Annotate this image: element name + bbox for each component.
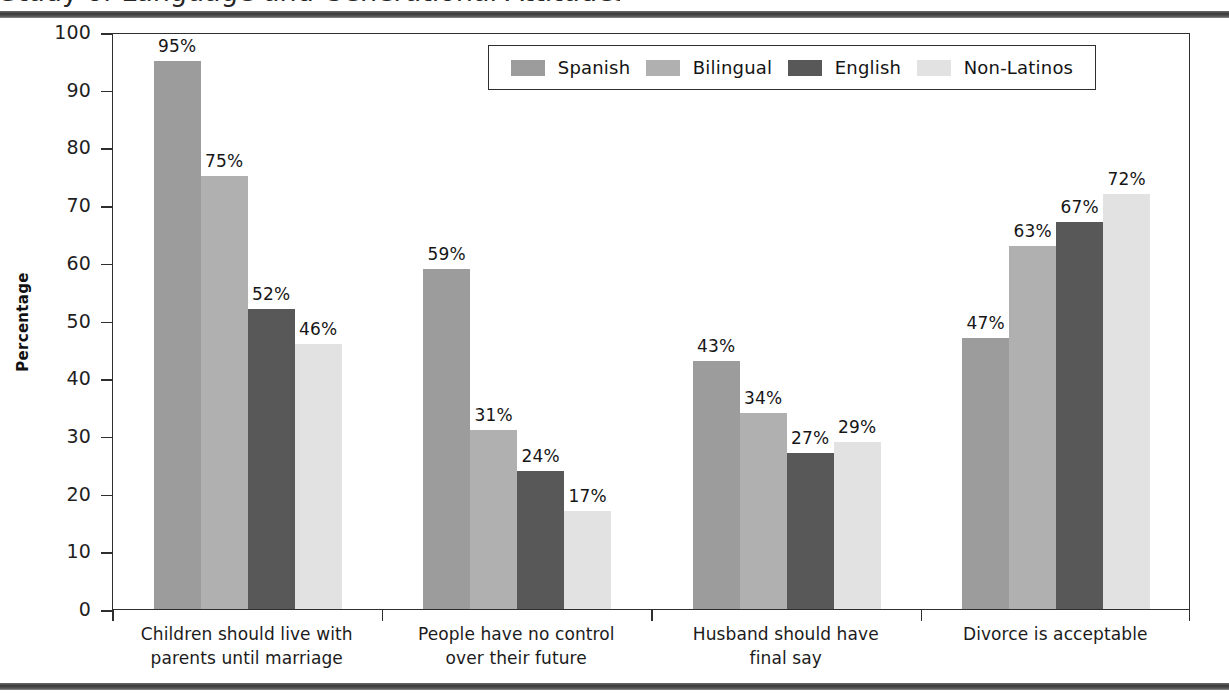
bar-slot: 46%: [295, 34, 342, 609]
chart-legend: SpanishBilingualEnglishNon-Latinos: [488, 45, 1096, 90]
bar-slot: 34%: [740, 34, 787, 609]
bar[interactable]: [248, 309, 295, 609]
bar[interactable]: [787, 453, 834, 609]
x-axis-category-label: Husband should have final say: [651, 622, 921, 670]
legend-item-spanish[interactable]: Spanish: [511, 57, 630, 78]
legend-swatch-icon: [788, 60, 822, 76]
bar-slot: 24%: [517, 34, 564, 609]
y-axis-tick-label: 0: [79, 598, 91, 620]
y-axis-tick-mark: [101, 552, 112, 554]
bar-slot: 67%: [1056, 34, 1103, 609]
y-axis-tick-label: 20: [66, 483, 91, 505]
top-rule: [0, 11, 1229, 18]
bar-slot: 72%: [1103, 34, 1150, 609]
y-axis-tick-label: 50: [66, 310, 91, 332]
bar[interactable]: [1009, 246, 1056, 610]
bar-slot: 43%: [693, 34, 740, 609]
y-axis-tick-mark: [101, 322, 112, 324]
y-axis-tick-mark: [101, 91, 112, 93]
clipped-page-heading: Study of Language and Generational Attit…: [0, 0, 620, 10]
bar-group: 43%34%27%29%: [693, 34, 881, 609]
y-axis-tick-mark: [101, 495, 112, 497]
bar-slot: 47%: [962, 34, 1009, 609]
y-axis: 0102030405060708090100: [0, 33, 112, 610]
legend-label: Spanish: [558, 57, 630, 78]
legend-item-bilingual[interactable]: Bilingual: [646, 57, 772, 78]
chart-plot-frame: 95%75%52%46%59%31%24%17%43%34%27%29%47%6…: [112, 33, 1190, 610]
bar-value-label: 29%: [812, 417, 903, 437]
bar-value-label: 72%: [1081, 169, 1172, 189]
y-axis-tick-label: 90: [66, 79, 91, 101]
y-axis-tick-mark: [101, 379, 112, 381]
legend-label: English: [835, 57, 901, 78]
y-axis-tick-label: 30: [66, 425, 91, 447]
page-root: Study of Language and Generational Attit…: [0, 0, 1229, 699]
y-axis-tick-mark: [101, 610, 112, 612]
bar-group-bars: 43%34%27%29%: [693, 34, 881, 609]
x-axis-tick-mark: [382, 610, 384, 621]
bar-group-bars: 47%63%67%72%: [962, 34, 1150, 609]
bar-value-label: 46%: [273, 319, 364, 339]
bar-group: 47%63%67%72%: [962, 34, 1150, 609]
bar-slot: 59%: [423, 34, 470, 609]
bar-slot: 31%: [470, 34, 517, 609]
y-axis-tick-mark: [101, 264, 112, 266]
bar-group-bars: 95%75%52%46%: [154, 34, 342, 609]
bar-group-bars: 59%31%24%17%: [423, 34, 611, 609]
y-axis-tick-label: 10: [66, 540, 91, 562]
bar-slot: 27%: [787, 34, 834, 609]
legend-item-non-latinos[interactable]: Non-Latinos: [917, 57, 1074, 78]
y-axis-tick-label: 40: [66, 367, 91, 389]
x-axis-category-label: Children should live with parents until …: [112, 622, 382, 670]
legend-swatch-icon: [917, 60, 951, 76]
bar[interactable]: [564, 511, 611, 609]
y-axis-tick-mark: [101, 33, 112, 35]
x-axis-category-label: Divorce is acceptable: [921, 622, 1191, 646]
bar-group: 59%31%24%17%: [423, 34, 611, 609]
legend-swatch-icon: [646, 60, 680, 76]
x-axis-tick-mark: [651, 610, 653, 621]
x-axis-category-label: People have no control over their future: [382, 622, 652, 670]
bar[interactable]: [201, 176, 248, 609]
y-axis-tick-mark: [101, 148, 112, 150]
bar[interactable]: [154, 61, 201, 609]
y-axis-tick-label: 60: [66, 252, 91, 274]
y-axis-tick-label: 100: [54, 21, 91, 43]
bar-group: 95%75%52%46%: [154, 34, 342, 609]
legend-swatch-icon: [511, 60, 545, 76]
legend-label: Bilingual: [693, 57, 772, 78]
y-axis-tick-mark: [101, 437, 112, 439]
bar[interactable]: [1103, 194, 1150, 609]
x-axis-tick-mark: [921, 610, 923, 621]
bar[interactable]: [834, 442, 881, 609]
x-axis-tick-mark: [112, 610, 114, 621]
y-axis-tick-mark: [101, 206, 112, 208]
y-axis-tick-label: 80: [66, 136, 91, 158]
y-axis-tick-label: 70: [66, 194, 91, 216]
bar-slot: 63%: [1009, 34, 1056, 609]
bar-slot: 95%: [154, 34, 201, 609]
bar[interactable]: [423, 269, 470, 609]
bar-value-label: 17%: [542, 486, 633, 506]
bar-slot: 17%: [564, 34, 611, 609]
bottom-rule: [0, 683, 1229, 690]
bar[interactable]: [1056, 222, 1103, 609]
bar[interactable]: [295, 344, 342, 609]
plot-area: 95%75%52%46%59%31%24%17%43%34%27%29%47%6…: [113, 34, 1189, 609]
bar-slot: 75%: [201, 34, 248, 609]
bar[interactable]: [962, 338, 1009, 609]
legend-item-english[interactable]: English: [788, 57, 901, 78]
legend-label: Non-Latinos: [964, 57, 1074, 78]
bar-slot: 29%: [834, 34, 881, 609]
x-axis-tick-mark: [1189, 610, 1191, 621]
